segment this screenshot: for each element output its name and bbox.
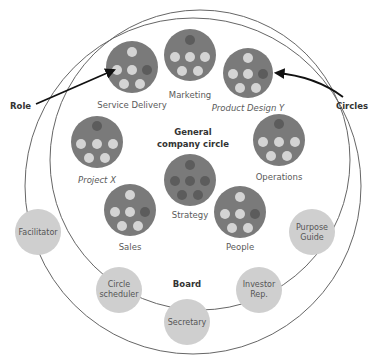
arrow-role-icon bbox=[36, 70, 114, 104]
svg-text:Facilitator: Facilitator bbox=[18, 228, 58, 237]
circle-product-design-y[interactable] bbox=[223, 48, 273, 98]
board-role-circle-scheduler[interactable]: Circle scheduler bbox=[96, 267, 142, 313]
board-label: Board bbox=[173, 279, 201, 289]
circle-marketing[interactable] bbox=[164, 29, 216, 81]
circle-label-service-delivery: Service Delivery bbox=[97, 100, 166, 110]
annotation-circles: Circles bbox=[336, 101, 368, 111]
circle-label-product-design-y: Product Design Y bbox=[212, 103, 285, 113]
general-circle-title-line2: company circle bbox=[157, 139, 229, 149]
circle-label-people: People bbox=[226, 242, 254, 252]
svg-text:Circle: Circle bbox=[108, 280, 131, 289]
circle-label-operations: Operations bbox=[256, 172, 303, 182]
circle-service-delivery[interactable] bbox=[106, 41, 158, 93]
board-role-facilitator[interactable]: Facilitator bbox=[15, 209, 61, 255]
circle-operations[interactable] bbox=[253, 114, 305, 166]
circle-project-x[interactable] bbox=[71, 116, 123, 168]
board-role-investor-rep[interactable]: Investor Rep. bbox=[236, 267, 282, 313]
board-role-secretary[interactable]: Secretary bbox=[164, 299, 210, 345]
circle-people[interactable] bbox=[214, 186, 266, 238]
svg-text:Rep.: Rep. bbox=[250, 290, 268, 299]
svg-text:Guide: Guide bbox=[300, 233, 324, 242]
circle-label-marketing: Marketing bbox=[169, 90, 211, 100]
svg-text:scheduler: scheduler bbox=[99, 290, 139, 299]
annotation-role: Role bbox=[10, 101, 31, 111]
general-circle-title-line1: General bbox=[174, 127, 211, 137]
svg-text:Investor: Investor bbox=[243, 280, 276, 289]
circle-strategy[interactable] bbox=[164, 154, 216, 206]
holacracy-diagram: Service Delivery Marketing Product Desig… bbox=[0, 0, 385, 361]
svg-text:Purpose: Purpose bbox=[296, 223, 328, 232]
circle-label-sales: Sales bbox=[119, 242, 142, 252]
circle-label-strategy: Strategy bbox=[172, 210, 208, 220]
svg-text:Secretary: Secretary bbox=[168, 318, 207, 327]
board-role-purpose-guide[interactable]: Purpose Guide bbox=[289, 209, 335, 255]
circle-label-project-x: Project X bbox=[78, 175, 116, 185]
circle-sales[interactable] bbox=[104, 184, 156, 236]
